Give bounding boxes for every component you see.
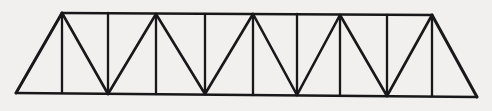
truss-diagram-figure	[0, 0, 492, 111]
truss-diagram-canvas	[0, 0, 492, 111]
